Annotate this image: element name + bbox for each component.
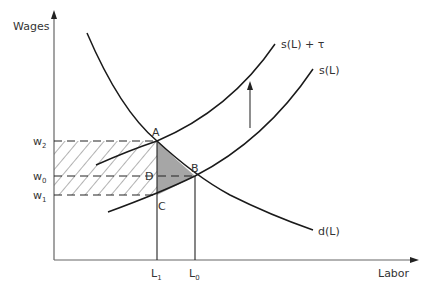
tax-incidence-diagram: Wages Labor s(L) + τ s(L) d(L) A B C D w… [0,0,428,291]
w2-label: w2 [33,135,46,150]
demand-curve [87,33,313,230]
tax-revenue-region [54,141,157,195]
w1-label: w1 [33,189,46,204]
diagram-canvas: Wages Labor s(L) + τ s(L) d(L) A B C D w… [0,0,428,291]
shift-arrow-up-icon [247,81,253,90]
y-axis-arrow-icon [51,10,57,19]
x-axis-label: Labor [378,267,410,280]
y-axis-label: Wages [13,20,50,33]
supply-taxed-label: s(L) + τ [281,38,325,51]
w0-label: w0 [33,170,46,185]
x-axis-arrow-icon [410,257,419,263]
L1-label: L1 [151,267,162,282]
point-B-label: B [191,162,199,175]
demand-label: d(L) [318,225,340,238]
point-A-label: A [152,126,160,139]
L0-label: L0 [189,267,200,282]
supply-label: s(L) [319,64,339,77]
point-C-label: C [158,200,166,213]
point-D-label: D [145,170,153,183]
